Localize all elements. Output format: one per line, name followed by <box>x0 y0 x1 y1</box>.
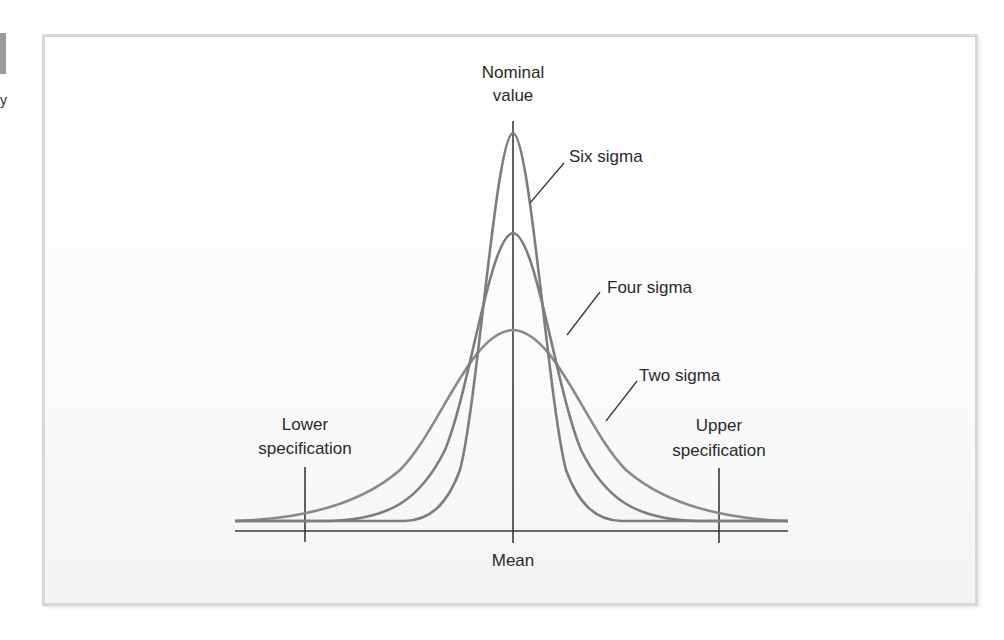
two-sigma-leader <box>606 381 637 421</box>
four-sigma-leader <box>567 292 600 335</box>
six-sigma-curve <box>235 133 788 521</box>
nominal-value-label-line1: Nominal <box>482 63 544 82</box>
four-sigma-label: Four sigma <box>607 278 693 297</box>
six-sigma-leader <box>530 163 564 203</box>
lower-spec-label-line1: Lower <box>282 415 329 434</box>
nominal-value-label-line2: value <box>493 86 534 105</box>
upper-spec-label-line2: specification <box>672 441 766 460</box>
two-sigma-label: Two sigma <box>639 366 721 385</box>
sigma-distribution-diagram: Nominal value Six sigma Four sigma Two s… <box>0 0 1004 640</box>
upper-spec-label-line1: Upper <box>696 416 743 435</box>
six-sigma-label: Six sigma <box>569 147 643 166</box>
mean-label: Mean <box>492 551 535 570</box>
lower-spec-label-line2: specification <box>258 439 352 458</box>
